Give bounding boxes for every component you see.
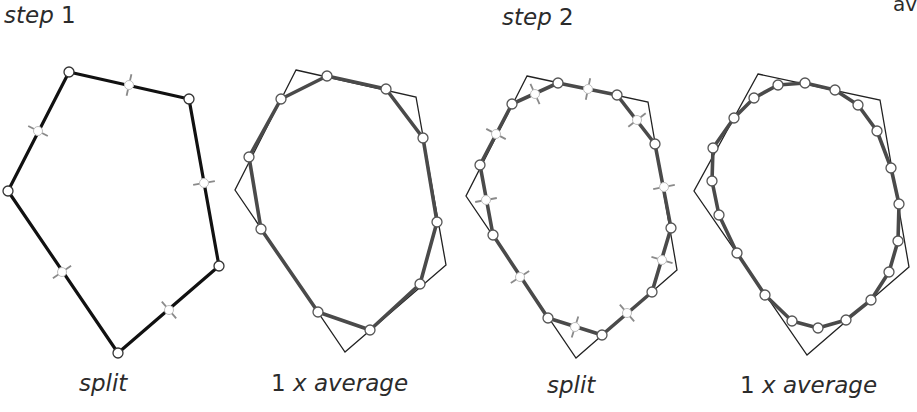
vertex-point [553,78,563,88]
split-marker [651,255,672,265]
reference-polygon [466,76,677,358]
vertex-point [714,210,724,220]
split-marker [28,126,48,136]
vertex-point [418,133,428,143]
control-polygon [8,72,219,353]
cutoff-heading: av [893,0,917,14]
split-marker [486,129,505,139]
split-point [571,323,580,332]
vertex-point [244,152,254,162]
vertex-point [64,67,74,77]
vertex-point [3,186,13,196]
split-marker [193,178,215,188]
vertex-point [415,279,425,289]
split-point [623,309,632,318]
split-point [658,256,667,265]
step1-heading-word: step [4,2,54,28]
reference-polygon [694,74,909,355]
vertex-point [666,223,676,233]
vertex-point [708,143,718,153]
vertex-point [787,316,797,326]
vertex-point [475,160,485,170]
caption-step1-split: split [79,372,127,395]
vertex-point [276,94,286,104]
vertex-point [432,217,442,227]
vertex-point [184,94,194,104]
vertex-point [813,323,823,333]
split-point [516,273,525,282]
vertex-point [866,295,876,305]
step2-heading-word: step [502,4,552,30]
vertex-point [841,315,851,325]
vertex-point [830,85,840,95]
split-point [200,179,209,188]
vertex-point [729,113,739,123]
vertex-point [597,330,607,340]
split-point [492,130,501,139]
smoothed-polygon [712,83,899,328]
split-point [58,268,67,277]
step2-heading-number: 2 [559,4,574,30]
vertex-point [647,287,657,297]
step1-heading-number: 1 [61,2,76,28]
vertex-point [507,99,517,109]
caption-step2-average: 1 x average [740,374,877,397]
vertex-point [313,307,323,317]
vertex-point [853,100,863,110]
vertex-point [893,236,903,246]
split-marker [124,74,134,95]
split-marker [653,182,675,192]
panel-step1-split [3,67,224,358]
split-point [531,90,540,99]
split-point [165,306,174,315]
vertex-point [732,248,742,258]
smoothed-polygon [480,83,671,335]
panel-step2-average [694,74,909,355]
vertex-point [800,78,810,88]
vertex-point [322,71,332,81]
split-point [482,196,491,205]
panel-step1-average [235,70,446,352]
vertex-point [872,126,882,136]
split-point [660,183,669,192]
vertex-point [543,313,553,323]
split-marker [583,78,593,100]
split-point [125,81,134,90]
vertex-point [749,93,759,103]
panel-step2-split [466,76,677,358]
split-point [633,116,642,125]
vertex-point [886,163,896,173]
vertex-point [381,84,391,94]
smoothed-polygon [249,76,437,330]
split-marker [570,317,580,338]
vertex-point [650,139,660,149]
caption-step2-split: split [547,374,595,397]
vertex-point [773,80,783,90]
split-marker [53,266,71,278]
caption-step1-average: 1 x average [271,372,408,395]
vertex-point [760,290,770,300]
split-marker [530,84,539,104]
split-point [34,127,43,136]
reference-polygon [235,70,446,352]
vertex-point [884,267,894,277]
vertex-point [894,199,904,209]
split-marker [511,271,529,283]
split-point [584,85,593,94]
vertex-point [214,261,224,271]
step1-heading: step 1 [4,4,76,27]
step2-heading: step 2 [502,6,574,29]
vertex-point [365,325,375,335]
vertex-point [707,176,717,186]
vertex-point [488,230,498,240]
vertex-point [612,90,622,100]
vertex-point [113,348,123,358]
split-marker [475,195,497,205]
vertex-point [256,224,266,234]
